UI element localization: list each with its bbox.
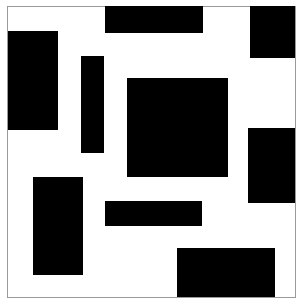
rect-upper-thin-vertical (81, 56, 104, 153)
rect-bottom-right (177, 248, 275, 297)
rect-top-center-bar (105, 6, 203, 33)
composition-canvas (0, 0, 303, 306)
rect-center-square (127, 78, 228, 177)
rect-top-left-tall (8, 31, 58, 130)
rect-right-middle (248, 128, 295, 203)
rect-lower-center-bar (105, 201, 202, 226)
rect-lower-left-tall (33, 177, 83, 275)
rect-top-right-square (250, 6, 295, 58)
